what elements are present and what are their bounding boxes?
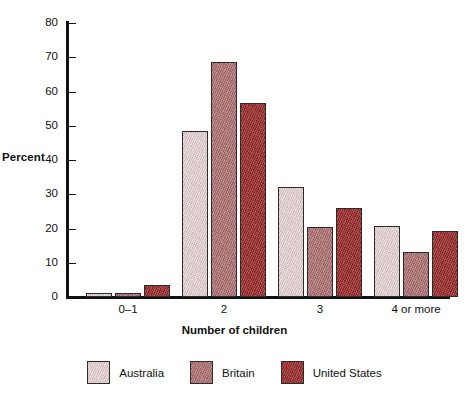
bar-australia-2 [182, 131, 208, 297]
plot-area [68, 23, 460, 297]
legend-swatch-australia [87, 361, 110, 384]
legend-item-australia[interactable]: Australia [87, 361, 164, 384]
chart-legend: AustraliaBritainUnited States [0, 361, 469, 384]
y-axis-tick-label: 50 [18, 120, 58, 131]
legend-swatch-united-states [281, 361, 304, 384]
y-axis-tick-label: 80 [18, 17, 58, 28]
legend-item-united-states[interactable]: United States [281, 361, 382, 384]
x-axis-tick-label: 2 [174, 303, 274, 315]
y-axis-tick-label: 40 [18, 154, 58, 165]
y-axis-tick-label: 60 [18, 86, 58, 97]
x-axis-title: Number of children [0, 324, 469, 336]
y-axis-tick [69, 297, 76, 298]
legend-label-united-states: United States [313, 367, 382, 379]
bar-united-states-2 [240, 103, 266, 297]
y-axis-tick-label: 70 [18, 51, 58, 62]
bar-britain-0-1 [115, 293, 141, 297]
bar-united-states-3 [336, 208, 362, 297]
x-axis-tick-label: 3 [270, 303, 370, 315]
legend-label-britain: Britain [222, 367, 255, 379]
bar-chart-figure: Percent 01020304050607080 0–1234 or more… [0, 0, 469, 402]
bar-australia-4-or-more [374, 226, 400, 297]
bar-britain-4-or-more [403, 252, 429, 297]
y-axis-tick-label: 30 [18, 188, 58, 199]
y-axis-tick-label: 0 [18, 291, 58, 302]
bar-australia-3 [278, 187, 304, 297]
legend-item-britain[interactable]: Britain [190, 361, 255, 384]
bar-united-states-0-1 [144, 285, 170, 297]
bar-australia-0-1 [86, 293, 112, 297]
x-axis-tick-label: 4 or more [366, 303, 466, 315]
bar-britain-2 [211, 62, 237, 297]
y-axis-tick-label: 20 [18, 223, 58, 234]
legend-swatch-britain [190, 361, 213, 384]
x-axis-tick-label: 0–1 [78, 303, 178, 315]
y-axis-tick-label: 10 [18, 257, 58, 268]
bar-britain-3 [307, 227, 333, 297]
legend-label-australia: Australia [119, 367, 164, 379]
bar-united-states-4-or-more [432, 231, 458, 297]
